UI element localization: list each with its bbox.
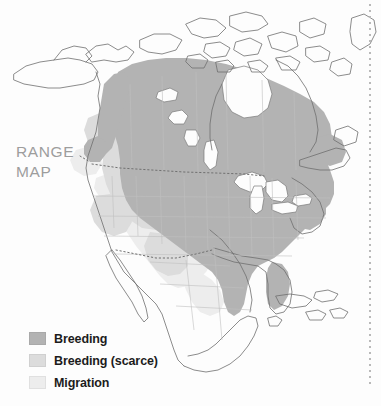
dotted-vertical-rule (369, 4, 371, 386)
legend-item-breeding-scarce: Breeding (scarce) (29, 351, 209, 370)
legend-item-migration: Migration (29, 373, 209, 392)
legend-label-breeding: Breeding (54, 332, 107, 346)
migration-swatch (29, 376, 46, 389)
breeding-swatch (29, 332, 46, 345)
legend-label-migration: Migration (54, 376, 109, 390)
map-legend: Breeding Breeding (scarce) Migration (29, 329, 209, 395)
range-map-figure: RANGE MAP Breeding Breeding (scarce) Mig… (0, 0, 381, 406)
breeding-scarce-swatch (29, 354, 46, 367)
legend-item-breeding: Breeding (29, 329, 209, 348)
legend-label-breeding-scarce: Breeding (scarce) (54, 354, 158, 368)
